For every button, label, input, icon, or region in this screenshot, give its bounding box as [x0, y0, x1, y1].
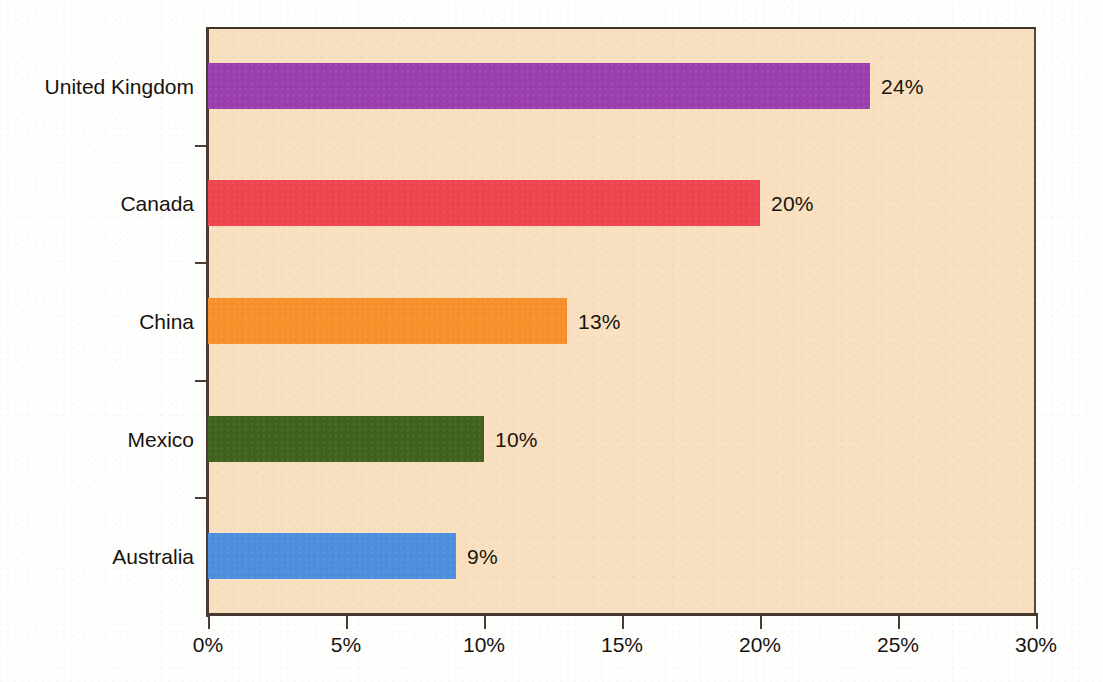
- y-axis-tick: [195, 262, 207, 264]
- x-axis-tick-label: 15%: [601, 634, 643, 655]
- x-axis-tick: [346, 616, 348, 629]
- y-axis-label-australia: Australia: [14, 546, 194, 567]
- bar-value-label: 24%: [881, 76, 924, 97]
- bar-china: [208, 298, 567, 344]
- y-axis-tick: [195, 380, 207, 382]
- x-axis-tick-label: 30%: [1015, 634, 1057, 655]
- x-axis-tick: [208, 616, 210, 629]
- bar-united-kingdom: [208, 63, 870, 109]
- x-axis-tick-label: 5%: [331, 634, 361, 655]
- y-axis-label-china: China: [14, 311, 194, 332]
- bar-mexico: [208, 416, 484, 462]
- bar-australia: [208, 533, 456, 579]
- x-axis-tick: [1036, 616, 1038, 629]
- x-axis-tick: [898, 616, 900, 629]
- bar-value-label: 20%: [771, 193, 814, 214]
- x-axis-tick-label: 0%: [193, 634, 223, 655]
- bar-value-label: 9%: [467, 546, 498, 567]
- x-axis-tick-label: 10%: [463, 634, 505, 655]
- y-axis-tick: [195, 497, 207, 499]
- x-axis-tick: [484, 616, 486, 629]
- y-axis-label-mexico: Mexico: [14, 429, 194, 450]
- x-axis-tick-label: 25%: [877, 634, 919, 655]
- bar-value-label: 13%: [578, 311, 621, 332]
- bar-canada: [208, 180, 760, 226]
- y-axis-label-canada: Canada: [14, 193, 194, 214]
- x-axis-tick-label: 20%: [739, 634, 781, 655]
- x-axis-tick: [760, 616, 762, 629]
- y-axis-tick: [195, 145, 207, 147]
- y-axis-label-united-kingdom: United Kingdom: [14, 76, 194, 97]
- horizontal-bar-chart: United KingdomCanadaChinaMexicoAustralia…: [0, 0, 1103, 682]
- x-axis-tick: [622, 616, 624, 629]
- bar-value-label: 10%: [495, 429, 538, 450]
